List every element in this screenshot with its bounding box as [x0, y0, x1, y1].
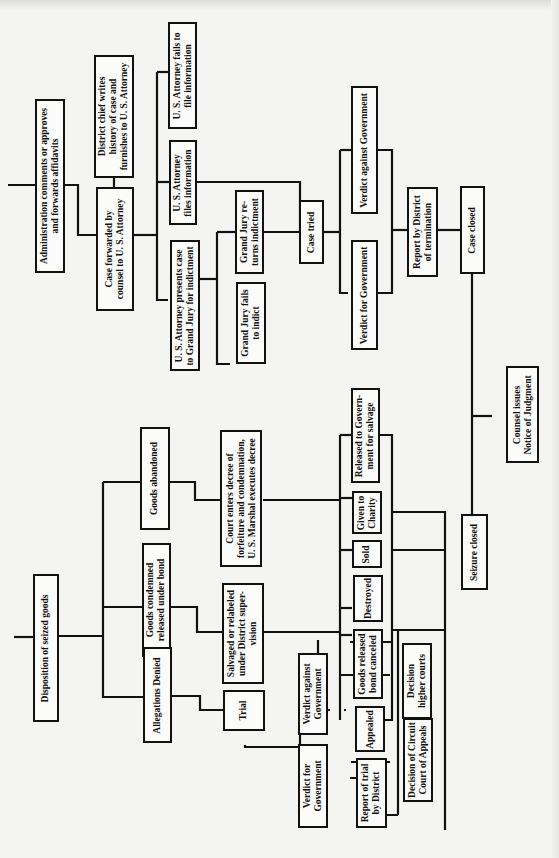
- node-usa-files-info: U. S. Attorney files information: [169, 140, 197, 225]
- node-verdict-against-gov-top: Verdict against Government: [351, 86, 378, 214]
- node-appealed: Appealed: [355, 706, 385, 752]
- node-gj-fails: Grand Jury fails to indict: [236, 282, 266, 364]
- node-goods-condemned: Goods condemned released under bond: [142, 543, 171, 657]
- node-destroyed: Destroyed: [353, 575, 383, 622]
- node-decision-circuit: Decision of Circuit Court of Appeals: [403, 718, 433, 802]
- node-trial: Trial: [223, 690, 265, 731]
- node-goods-abandoned: Goods abandoned: [140, 427, 170, 530]
- flowchart-page: Administration comments or approves and …: [0, 0, 559, 858]
- node-usa-grand-jury: U. S. Attorney presents case to Grand Ju…: [170, 240, 200, 371]
- node-district-chief: District chief writes history of case an…: [94, 55, 134, 178]
- node-usa-fails-info: U. S. Attorney fails to file information: [168, 22, 197, 129]
- node-disposition: Disposition of seized goods: [33, 574, 59, 722]
- node-released-salvage: Released to Govern- ment for salvage: [351, 388, 380, 483]
- node-counsel-issues: Counsel issues Notice of Judgment: [506, 366, 539, 463]
- node-seizure-closed: Seizure closed: [461, 514, 488, 590]
- node-sold: Sold: [352, 540, 382, 568]
- node-case-tried: Case tried: [299, 200, 324, 264]
- node-decision-higher: Decision higher courts: [402, 643, 432, 719]
- node-given-charity: Given to Charity: [352, 491, 382, 534]
- node-court-enters: Court enters decree of forfeiture and co…: [220, 430, 262, 567]
- node-verdict-for-gov-top: Verdict for Government: [351, 240, 378, 350]
- connector-lines: [0, 0, 559, 858]
- node-verdict-against-gov-bottom: Verdict against Government: [298, 653, 328, 735]
- node-case-closed: Case closed: [460, 186, 485, 274]
- node-admin: Administration comments or approves and …: [35, 99, 65, 273]
- node-report-termination: Report by District of termination: [407, 187, 438, 277]
- node-gj-returns: Grand Jury re- turns indictment: [235, 190, 264, 274]
- node-salvaged: Salvaged or relabeled under District sup…: [222, 583, 264, 684]
- node-report-trial: Report of trial by District: [356, 758, 387, 828]
- node-case-forwarded: Case forwarded by counsel to U. S. Attor…: [96, 187, 134, 311]
- node-verdict-for-gov-bottom: Verdict for Government: [298, 744, 328, 828]
- node-allegations-denied: Allegations Denied: [143, 647, 172, 743]
- node-goods-released-bond: Goods released bond canceled: [353, 629, 383, 699]
